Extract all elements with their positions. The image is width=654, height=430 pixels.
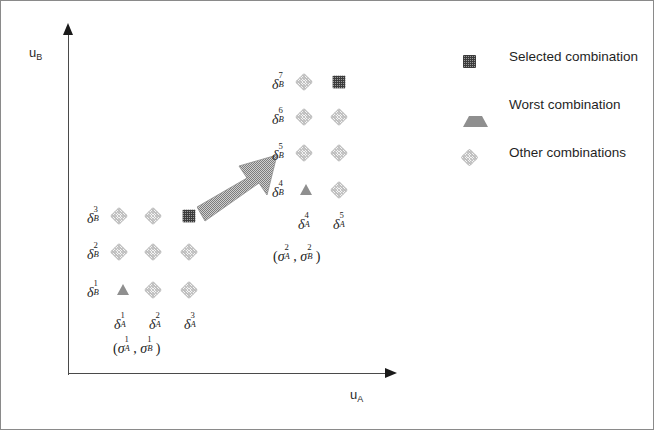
other-diamond-icon — [110, 207, 128, 225]
cluster-annotation: (σ1A, σ1B) — [113, 339, 161, 356]
x-axis-label: uA — [350, 387, 363, 402]
x-axis-arrowhead-icon — [385, 368, 397, 378]
row-label: δ2B — [87, 245, 102, 262]
column-label: δ2A — [149, 315, 164, 332]
cluster-annotation: (σ2A, σ2B) — [273, 247, 321, 264]
selected-square-icon — [183, 210, 196, 223]
column-label: δ3A — [184, 315, 199, 332]
row-label: δ7B — [272, 75, 287, 92]
selected-square-icon — [333, 76, 346, 89]
legend-item-other: Other combinations — [463, 145, 643, 193]
worst-triangle-icon — [463, 103, 488, 127]
x-axis-label-sub: A — [357, 394, 363, 404]
row-label: δ4B — [272, 183, 287, 200]
other-diamond-icon — [180, 243, 198, 261]
x-axis-line — [68, 373, 388, 374]
transition-arrow — [197, 153, 283, 227]
row-label: δ1B — [87, 283, 102, 300]
figure-canvas: uB uA δ3Bδ2Bδ1Bδ1Aδ2Aδ3A(σ1A, σ1B)δ7Bδ6B… — [0, 0, 654, 430]
other-diamond-icon — [144, 281, 162, 299]
column-label: δ4A — [298, 215, 313, 232]
row-label: δ6B — [272, 110, 287, 127]
other-diamond-icon — [330, 108, 348, 126]
other-diamond-icon — [110, 243, 128, 261]
legend-label-other: Other combinations — [509, 145, 626, 160]
other-diamond-icon — [295, 144, 313, 162]
legend-label-worst: Worst combination — [509, 97, 621, 112]
other-diamond-icon — [295, 73, 313, 91]
selected-square-icon — [463, 55, 476, 68]
y-axis-arrowhead-icon — [63, 23, 73, 35]
other-diamond-icon — [180, 281, 198, 299]
other-diamond-icon — [295, 108, 313, 126]
column-label: δ1A — [114, 315, 129, 332]
legend-item-selected: Selected combination — [463, 49, 643, 97]
worst-triangle-icon — [300, 184, 312, 195]
y-axis-label: uB — [29, 45, 42, 60]
y-axis-line — [68, 33, 69, 375]
legend-item-worst: Worst combination — [463, 97, 643, 145]
worst-triangle-icon — [117, 284, 129, 295]
legend-label-selected: Selected combination — [509, 49, 638, 64]
other-diamond-icon — [330, 144, 348, 162]
other-diamond-icon — [460, 148, 478, 166]
row-label: δ3B — [87, 209, 102, 226]
other-diamond-icon — [144, 207, 162, 225]
legend: Selected combination Worst combination O… — [463, 49, 643, 193]
other-diamond-icon — [144, 243, 162, 261]
column-label: δ5A — [333, 215, 348, 232]
y-axis-label-sub: B — [36, 52, 42, 62]
other-diamond-icon — [330, 181, 348, 199]
row-label: δ5B — [272, 146, 287, 163]
